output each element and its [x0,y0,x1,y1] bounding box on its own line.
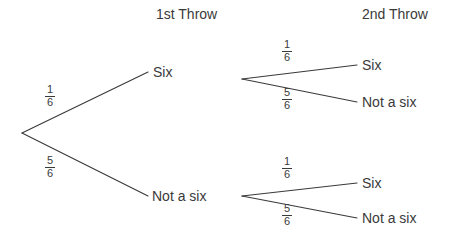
branch-line-l1-six [22,72,148,133]
fraction-numerator: 5 [282,203,292,216]
fraction-denominator: 6 [282,100,292,112]
node-label-first-throw-six: Six [153,65,172,79]
fraction-numerator: 5 [45,155,55,168]
branch-line-l2b-notsix [242,196,357,218]
probability-fraction-second-throw-six-upper: 1 6 [282,39,292,63]
probability-fraction-second-throw-six-lower: 1 6 [282,156,292,180]
fraction-denominator: 6 [282,216,292,228]
fraction-denominator: 6 [45,168,55,180]
fraction-denominator: 6 [282,169,292,181]
fraction-numerator: 1 [45,84,55,97]
node-label-first-throw-not-a-six: Not a six [152,189,206,203]
fraction-numerator: 1 [282,156,292,169]
node-label-second-throw-six-lower: Six [362,176,381,190]
node-label-second-throw-six-upper: Six [362,58,381,72]
fraction-denominator: 6 [45,97,55,109]
probability-tree-diagram: 1st Throw 2nd Throw Six Not a six Six No… [0,0,464,241]
fraction-numerator: 5 [282,87,292,100]
probability-fraction-first-throw-six: 1 6 [45,84,55,108]
probability-fraction-first-throw-not-a-six: 5 6 [45,155,55,179]
branch-line-l2a-six [242,65,357,79]
column-header-second-throw: 2nd Throw [362,7,428,21]
column-header-first-throw: 1st Throw [156,7,217,21]
node-label-second-throw-not-a-six-upper: Not a six [362,95,416,109]
fraction-denominator: 6 [282,52,292,64]
probability-fraction-second-throw-not-a-six-upper: 5 6 [282,87,292,111]
probability-fraction-second-throw-not-a-six-lower: 5 6 [282,203,292,227]
branch-line-l1-notsix [22,133,148,196]
node-label-second-throw-not-a-six-lower: Not a six [362,211,416,225]
fraction-numerator: 1 [282,39,292,52]
branch-line-l2a-notsix [242,79,357,102]
tree-branch-lines [0,0,464,241]
branch-line-l2b-six [242,183,357,196]
